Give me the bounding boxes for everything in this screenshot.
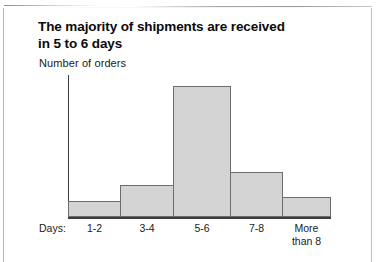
bar-7-8 [230,172,283,217]
x-tick-label-5-6: 5-6 [173,222,231,235]
bar-more-than-8 [282,197,331,217]
x-tick-text-3-4: 3-4 [139,222,154,234]
x-axis-caption: Days: [39,222,66,234]
x-tick-text-1-2: 1-2 [87,222,102,234]
x-tick-label-3-4: 3-4 [120,222,174,235]
bar-series [68,75,331,217]
x-tick-text-more-line2: than 8 [282,235,331,248]
x-tick-label-more-than-8: More than 8 [282,222,331,247]
bar-5-6 [173,86,231,217]
bar-1-2 [68,201,121,217]
chart-page: The majority of shipments are received i… [0,0,384,262]
x-tick-text-more-line1: More [295,222,319,234]
x-tick-label-7-8: 7-8 [230,222,283,235]
x-axis-line [68,217,331,219]
x-tick-label-1-2: 1-2 [68,222,121,235]
x-axis-tick-labels: Days: 1-2 3-4 5-6 7-8 More than 8 [0,221,384,261]
x-tick-text-7-8: 7-8 [249,222,264,234]
bar-3-4 [120,185,174,217]
x-tick-text-5-6: 5-6 [194,222,209,234]
